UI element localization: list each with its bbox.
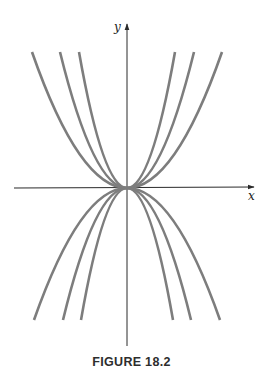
x-axis-label: x [248,189,255,203]
figure-caption: FIGURE 18.2 [0,355,263,369]
y-axis-label: y [113,20,121,34]
parabola-family-diagram: y x [0,0,263,377]
